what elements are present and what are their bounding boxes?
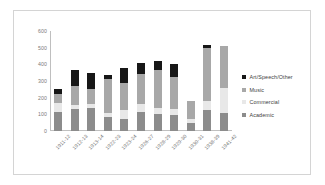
chart-frame: 6005004003002001000 1911-121912-131913-1… (13, 10, 311, 175)
bar-stack[interactable] (104, 75, 112, 131)
bar-stack[interactable] (187, 101, 195, 131)
legend-item-label: Academic (250, 112, 274, 118)
bar-segment[interactable] (187, 123, 195, 131)
bar-segment[interactable] (71, 109, 79, 131)
legend-item[interactable]: Academic (242, 109, 325, 122)
legend-swatch-commercial-icon (242, 100, 246, 104)
bar-segment[interactable] (203, 110, 211, 131)
x-axis-tick-labels: 1911-121912-131913-141922-231923-241926-… (50, 132, 232, 176)
chart-legend: Art/Speech/OtherMusicCommercialAcademic (242, 71, 325, 121)
legend-item[interactable]: Art/Speech/Other (242, 71, 325, 84)
bar-column[interactable] (166, 31, 183, 131)
bar-segment[interactable] (87, 89, 95, 104)
legend-swatch-music-icon (242, 88, 246, 92)
bar-segment[interactable] (220, 88, 228, 113)
bar-column[interactable] (83, 31, 100, 131)
bar-segment[interactable] (137, 63, 145, 75)
bar-stack[interactable] (87, 73, 95, 131)
bar-segment[interactable] (120, 119, 128, 131)
y-axis-tick-500: 500 (38, 45, 47, 51)
bar-segment[interactable] (154, 61, 162, 70)
bar-segment[interactable] (120, 110, 128, 119)
bar-segment[interactable] (137, 74, 145, 103)
bar-column[interactable] (199, 31, 216, 131)
bar-stack[interactable] (137, 63, 145, 131)
y-axis-tick-400: 400 (38, 61, 47, 67)
bar-column[interactable] (182, 31, 199, 131)
bar-column[interactable] (116, 31, 133, 131)
plot-area: 6005004003002001000 (50, 31, 232, 131)
bar-segment[interactable] (154, 114, 162, 132)
bar-stack[interactable] (71, 70, 79, 131)
legend-item-label: Music (250, 87, 265, 93)
bar-segment[interactable] (220, 46, 228, 88)
bar-segment[interactable] (87, 108, 95, 131)
bar-segment[interactable] (170, 77, 178, 110)
bar-stack[interactable] (170, 64, 178, 131)
x-label-slot: 1922-23 (100, 132, 117, 176)
y-axis-tick-0: 0 (44, 128, 47, 134)
bar-segment[interactable] (137, 112, 145, 131)
bar-segment[interactable] (170, 64, 178, 77)
bar-segment[interactable] (104, 79, 112, 113)
legend-item[interactable]: Music (242, 84, 325, 97)
bar-segment[interactable] (203, 48, 211, 101)
bar-column[interactable] (149, 31, 166, 131)
y-axis-tick-300: 300 (38, 78, 47, 84)
bar-segment[interactable] (71, 70, 79, 86)
x-label-slot: 1912-13 (67, 132, 84, 176)
bar-segment[interactable] (187, 101, 195, 119)
bar-series-group (50, 31, 232, 131)
bar-segment[interactable] (120, 68, 128, 83)
bar-segment[interactable] (154, 70, 162, 108)
x-label-slot: 1911-12 (50, 132, 67, 176)
x-label-slot: 1923-24 (116, 132, 133, 176)
y-axis-tick-600: 600 (38, 28, 47, 34)
legend-item[interactable]: Commercial (242, 96, 325, 109)
bar-stack[interactable] (220, 46, 228, 131)
legend-item-label: Art/Speech/Other (250, 74, 293, 80)
x-label-slot: 1928-29 (149, 132, 166, 176)
bar-segment[interactable] (54, 94, 62, 103)
bar-segment[interactable] (220, 113, 228, 131)
x-label-slot: 1913-14 (83, 132, 100, 176)
bar-segment[interactable] (120, 83, 128, 111)
x-label-slot: 1926-27 (133, 132, 150, 176)
bar-stack[interactable] (120, 68, 128, 131)
bar-segment[interactable] (137, 104, 145, 112)
x-label-slot: 1938-39 (199, 132, 216, 176)
legend-item-label: Commercial (250, 99, 280, 105)
legend-swatch-art-icon (242, 75, 246, 79)
bar-column[interactable] (215, 31, 232, 131)
y-axis-tick-100: 100 (38, 111, 47, 117)
legend-swatch-academic-icon (242, 113, 246, 117)
y-axis-tick-200: 200 (38, 95, 47, 101)
bar-segment[interactable] (203, 101, 211, 110)
bar-stack[interactable] (203, 45, 211, 131)
bar-column[interactable] (100, 31, 117, 131)
bar-column[interactable] (67, 31, 84, 131)
x-axis-label: 1941-42 (220, 133, 238, 151)
bar-segment[interactable] (104, 117, 112, 131)
bar-column[interactable] (50, 31, 67, 131)
bar-column[interactable] (133, 31, 150, 131)
bar-segment[interactable] (71, 86, 79, 105)
x-label-slot: 1929-30 (166, 132, 183, 176)
x-label-slot: 1941-42 (215, 132, 232, 176)
x-label-slot: 1930-31 (182, 132, 199, 176)
bar-stack[interactable] (54, 89, 62, 131)
bar-segment[interactable] (170, 115, 178, 131)
bar-segment[interactable] (54, 103, 62, 112)
bar-segment[interactable] (87, 73, 95, 90)
bar-stack[interactable] (154, 61, 162, 131)
bar-segment[interactable] (54, 112, 62, 131)
